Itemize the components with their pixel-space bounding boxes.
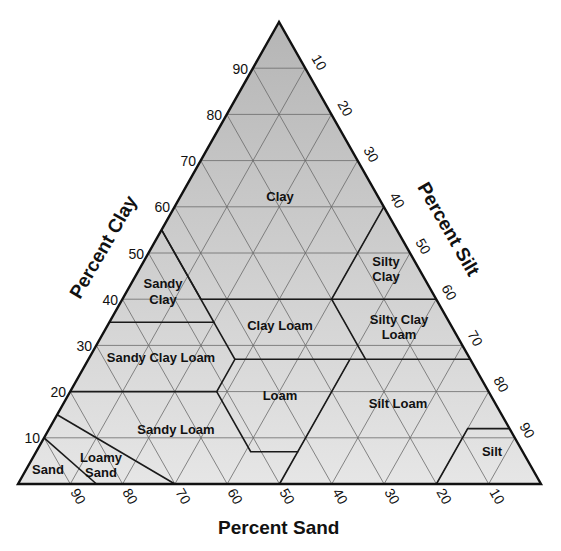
svg-text:40: 40 (102, 292, 118, 308)
svg-text:60: 60 (438, 282, 460, 304)
svg-text:90: 90 (516, 420, 538, 442)
svg-text:80: 80 (119, 486, 141, 508)
svg-text:10: 10 (486, 486, 508, 508)
sand-axis-ticks: 90 80 70 60 50 40 30 20 10 (67, 486, 508, 508)
label-silt-loam: Silt Loam (369, 396, 428, 411)
svg-text:50: 50 (412, 236, 434, 258)
label-silt: Silt (482, 444, 503, 459)
svg-text:60: 60 (154, 199, 170, 215)
svg-text:20: 20 (50, 384, 66, 400)
svg-text:70: 70 (172, 486, 194, 508)
label-silty-clay: Silty (372, 254, 400, 269)
svg-text:50: 50 (128, 246, 144, 262)
svg-text:40: 40 (329, 486, 351, 508)
svg-text:10: 10 (24, 430, 40, 446)
label-clay: Clay (266, 189, 294, 204)
svg-text:20: 20 (334, 98, 356, 120)
svg-text:20: 20 (433, 486, 455, 508)
axis-title-sand: Percent Sand (218, 517, 339, 538)
svg-text:30: 30 (381, 486, 403, 508)
svg-text:30: 30 (360, 144, 382, 166)
label-loam: Loam (263, 388, 298, 403)
svg-text:40: 40 (386, 190, 408, 212)
svg-text:70: 70 (180, 153, 196, 169)
label-sandy-loam: Sandy Loam (137, 422, 214, 437)
label-sandy-clay-2: Clay (149, 292, 177, 307)
label-sandy-clay-loam: Sandy Clay Loam (107, 350, 215, 365)
svg-text:80: 80 (206, 107, 222, 123)
svg-text:10: 10 (308, 52, 330, 74)
label-clay-loam: Clay Loam (247, 318, 313, 333)
svg-text:50: 50 (276, 486, 298, 508)
axis-title-silt: Percent Silt (414, 179, 485, 281)
svg-text:80: 80 (490, 374, 512, 396)
label-sand: Sand (32, 462, 64, 477)
svg-text:90: 90 (67, 486, 89, 508)
svg-text:30: 30 (76, 338, 92, 354)
label-silty-clay-loam: Silty Clay (370, 312, 429, 327)
label-silty-clay-2: Clay (372, 269, 400, 284)
svg-text:90: 90 (232, 61, 248, 77)
label-sandy-clay: Sandy (143, 276, 183, 291)
label-loamy-sand-2: Sand (85, 465, 117, 480)
soil-texture-triangle: Clay Silty Clay Sandy Clay Clay Loam Sil… (0, 0, 561, 551)
svg-text:70: 70 (464, 328, 486, 350)
label-loamy-sand: Loamy (80, 450, 123, 465)
label-silty-clay-loam-2: Loam (382, 327, 417, 342)
svg-text:60: 60 (224, 486, 246, 508)
